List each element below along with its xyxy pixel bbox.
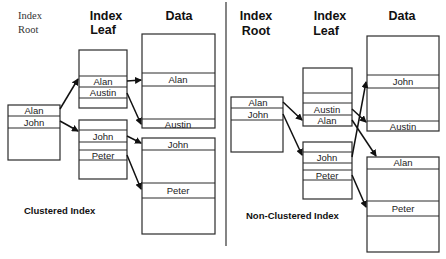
clustered-leaf-row: Alan — [93, 76, 112, 87]
clustered-root-header-line2: Root — [18, 24, 39, 35]
clustered-data-row: Peter — [167, 185, 190, 196]
clustered-root-header-line1: Index — [18, 10, 43, 21]
arrow-leaf-austin-to-data — [127, 93, 141, 124]
nonclustered-data-row: Peter — [392, 203, 415, 214]
clustered-data-page-1: Alan Austin — [142, 34, 215, 130]
clustered-data-row: Alan — [168, 74, 187, 85]
arrow-leaf-peter-to-data — [127, 155, 141, 189]
arrow-leaf-peter-to-data — [352, 175, 366, 207]
clustered-root-page: Alan John — [8, 105, 60, 160]
nonclustered-leaf-row: John — [317, 152, 338, 163]
clustered-leaf-row: Austin — [90, 87, 116, 98]
nonclustered-data-row: John — [393, 76, 414, 87]
index-diagram: Index Root Index Leaf Data Alan John Ala… — [0, 0, 446, 259]
nonclustered-index-caption: Non-Clustered Index — [246, 210, 340, 221]
clustered-root-row: Alan — [24, 105, 43, 116]
clustered-data-page-2: John Peter — [142, 138, 215, 234]
nonclustered-leaf-row: Alan — [317, 115, 336, 126]
nonclustered-data-header: Data — [388, 9, 416, 23]
clustered-leaf-page-1: Alan Austin — [79, 50, 127, 108]
nonclustered-leaf-row: Peter — [316, 170, 339, 181]
clustered-leaf-page-2: John Peter — [79, 120, 127, 179]
arrow-leaf-alan-to-data — [127, 80, 141, 81]
nonclustered-data-row: Alan — [393, 157, 412, 168]
clustered-index-caption: Clustered Index — [24, 205, 96, 216]
nonclustered-root-row: John — [248, 109, 269, 120]
nonclustered-leaf-page-1: Austin Alan — [303, 68, 352, 126]
clustered-leaf-header-line1: Index — [90, 9, 123, 23]
nonclustered-root-header-line2: Root — [242, 24, 271, 38]
nonclustered-leaf-header-line1: Index — [314, 9, 347, 23]
nonclustered-data-page-2: Alan Peter — [367, 157, 439, 252]
clustered-leaf-header-line2: Leaf — [90, 23, 117, 37]
clustered-leaf-row: Peter — [92, 150, 115, 161]
clustered-data-row: John — [168, 139, 189, 150]
nonclustered-leaf-header-line2: Leaf — [313, 24, 340, 38]
nonclustered-root-header-line1: Index — [240, 9, 273, 23]
arrow-root-to-leaf2 — [60, 121, 78, 131]
clustered-index-panel: Index Root Index Leaf Data Alan John Ala… — [8, 9, 215, 234]
arrow-root-to-leaf2 — [283, 114, 302, 155]
arrow-root-to-leaf1 — [283, 102, 302, 120]
arrow-leaf-john-to-data — [127, 136, 141, 143]
nonclustered-root-page: Alan John — [231, 97, 283, 152]
nonclustered-data-page-1: John Austin — [367, 36, 439, 132]
nonclustered-leaf-page-2: John Peter — [303, 142, 352, 199]
clustered-data-row: Austin — [165, 119, 191, 130]
nonclustered-root-row: Alan — [248, 97, 267, 108]
clustered-data-header: Data — [165, 9, 193, 23]
nonclustered-leaf-row: Austin — [314, 104, 340, 115]
clustered-leaf-row: John — [93, 131, 114, 142]
nonclustered-data-row: Austin — [390, 121, 416, 132]
arrow-root-to-leaf1 — [60, 79, 78, 109]
nonclustered-index-panel: Index Root Index Leaf Data Alan John Aus… — [231, 9, 439, 252]
clustered-root-row: John — [24, 117, 45, 128]
